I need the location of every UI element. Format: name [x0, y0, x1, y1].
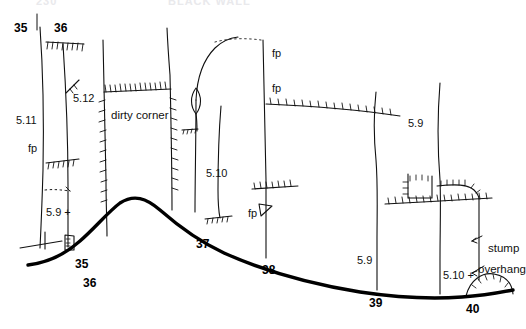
- roof-dirty-corner: [104, 89, 171, 92]
- route-37-left-wall: [103, 40, 107, 236]
- dotted-band-35-36: [45, 190, 70, 191]
- roof-40-base: [385, 198, 492, 204]
- roof-curved-40-hatch: [441, 180, 480, 193]
- roof-38-lower: [252, 186, 298, 189]
- route-number-36-bottom: 36: [83, 277, 96, 289]
- fixed-pin-label-2: fp: [272, 48, 281, 59]
- arch-crest-dotted: [215, 39, 261, 42]
- route-number-35-bottom: 35: [75, 258, 88, 270]
- roof-38-lower-hatch: [254, 180, 291, 189]
- route-38-line: [263, 40, 266, 258]
- grade-5-10-plus: 5.10 +: [443, 270, 474, 281]
- route-40-line: [438, 83, 440, 294]
- fixed-pin-label-4: fp: [248, 208, 257, 219]
- route-39-line: [374, 92, 377, 290]
- note-overhang: overhang: [478, 264, 526, 276]
- route-number-36-top: 36: [54, 22, 67, 34]
- grade-5-9-plus: 5.9 +: [46, 207, 71, 218]
- lower-ledge-left: [20, 241, 62, 248]
- route-number-40: 40: [466, 303, 479, 315]
- grade-5-9-lower: 5.9: [357, 255, 372, 266]
- overhang-bulge-hatch: [472, 274, 512, 292]
- route-number-38: 38: [262, 264, 275, 276]
- roof-38-upper: [266, 104, 400, 116]
- route-number-35-top: 35: [14, 22, 27, 34]
- grade-5-12: 5.12: [73, 93, 94, 104]
- roof-dirty-corner-hatch: [105, 82, 166, 92]
- grade-5-9-upper: 5.9: [408, 118, 423, 129]
- arch-left-edge: [196, 37, 238, 100]
- grade-5-11: 5.11: [16, 115, 37, 126]
- fixed-pin-label-3: fp: [272, 83, 281, 94]
- grade-5-10: 5.10: [206, 168, 227, 179]
- roof-block-upper-hatch: [403, 175, 428, 194]
- route-35-line: [40, 27, 43, 248]
- route-5-10-line: [218, 106, 221, 218]
- note-dirty-corner: dirty corner: [111, 110, 169, 122]
- roof-40-base-hatch: [388, 193, 487, 204]
- note-stump: stump: [488, 243, 519, 255]
- route-number-37: 37: [196, 238, 209, 250]
- route-number-39: 39: [369, 297, 382, 309]
- fixed-pin-label-1: fp: [28, 143, 37, 154]
